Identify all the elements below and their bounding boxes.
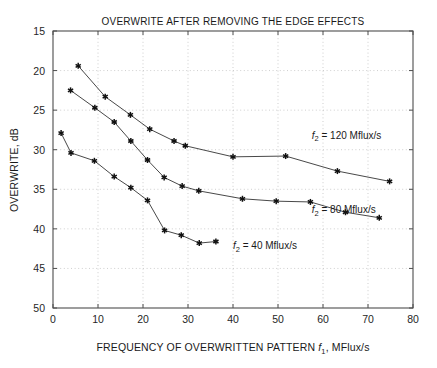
x-tick-label: 20 bbox=[137, 313, 149, 325]
x-tick-label: 30 bbox=[182, 313, 194, 325]
x-tick-label: 80 bbox=[407, 313, 419, 325]
overwrite-line-chart: 01020304050607080 1520253035404550 OVERW… bbox=[0, 0, 437, 368]
x-tick-label: 60 bbox=[317, 313, 329, 325]
y-tick-label: 35 bbox=[33, 183, 45, 195]
y-tick-label: 25 bbox=[33, 104, 45, 116]
y-tick-label: 45 bbox=[33, 262, 45, 274]
y-tick-label: 50 bbox=[33, 302, 45, 314]
y-axis-title: OVERWRITE, dB bbox=[8, 128, 20, 212]
x-tick-label: 50 bbox=[272, 313, 284, 325]
y-tick-label: 20 bbox=[33, 65, 45, 77]
y-tick-label: 15 bbox=[33, 25, 45, 37]
x-tick-label: 40 bbox=[227, 313, 239, 325]
x-tick-label: 0 bbox=[50, 313, 56, 325]
y-tick-label: 40 bbox=[33, 223, 45, 235]
x-tick-label: 70 bbox=[362, 313, 374, 325]
figure-container: 01020304050607080 1520253035404550 OVERW… bbox=[0, 0, 437, 368]
y-tick-label: 30 bbox=[33, 144, 45, 156]
chart-title: OVERWRITE AFTER REMOVING THE EDGE EFFECT… bbox=[102, 16, 365, 27]
x-tick-label: 10 bbox=[92, 313, 104, 325]
